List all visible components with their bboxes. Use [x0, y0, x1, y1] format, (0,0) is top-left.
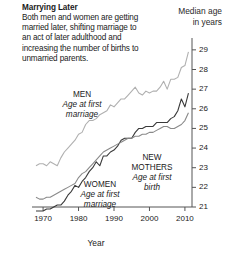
y-tick-label: 26	[199, 104, 215, 113]
svg-text:marriage: marriage	[66, 110, 99, 119]
y-tick-label: 28	[199, 65, 215, 74]
x-tick-label: 2010	[168, 214, 202, 223]
svg-text:birth: birth	[144, 183, 160, 192]
x-tick-label: 1970	[26, 214, 60, 223]
series-annotation-women: WOMENAge at firstmarriage	[79, 180, 120, 209]
series-annotation-men: MENAge at firstmarriage	[61, 90, 102, 119]
svg-text:NEW: NEW	[142, 153, 161, 162]
svg-text:marriage: marriage	[84, 200, 117, 209]
y-tick-label: 29	[199, 45, 215, 54]
y-tick-label: 21	[199, 202, 215, 211]
x-axis-title: Year	[0, 238, 192, 248]
x-tick-label: 1980	[62, 214, 96, 223]
y-tick-label: 27	[199, 84, 215, 93]
svg-text:WOMEN: WOMEN	[84, 180, 116, 189]
y-tick-label: 25	[199, 123, 215, 132]
svg-text:Age at first: Age at first	[131, 173, 172, 182]
svg-text:Age at first: Age at first	[79, 190, 120, 199]
y-tick-label: 22	[199, 182, 215, 191]
x-tick-label: 2000	[132, 214, 166, 223]
series-line-men	[36, 52, 188, 166]
svg-text:MEN: MEN	[73, 90, 91, 99]
y-tick-label: 23	[199, 163, 215, 172]
x-tick-label: 1990	[97, 214, 131, 223]
svg-text:Age at first: Age at first	[61, 100, 102, 109]
series-annotation-new-mothers: NEWMOTHERSAge at firstbirth	[131, 153, 173, 192]
y-tick-label: 24	[199, 143, 215, 152]
svg-text:MOTHERS: MOTHERS	[132, 163, 173, 172]
chart-figure: { "header": { "title": "Marrying Later",…	[0, 0, 228, 258]
